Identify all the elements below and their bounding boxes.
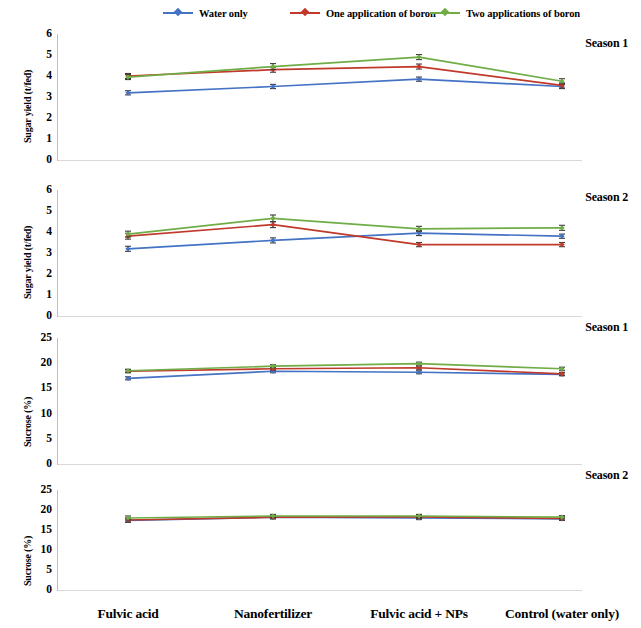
y-axis-tick-label: 6 <box>30 184 52 196</box>
x-axis-category-labels: Fulvic acidNanofertilizerFulvic acid + N… <box>0 604 641 626</box>
x-axis-label-4: Control (water only) <box>505 606 619 622</box>
legend-label: Water only <box>199 8 248 19</box>
y-axis-tick-label: 25 <box>30 332 52 344</box>
y-axis-tick-label: 15 <box>30 383 52 395</box>
y-axis-line <box>57 490 58 591</box>
data-point-marker <box>270 238 275 243</box>
x-axis-label-3: Fulvic acid + NPs <box>370 606 468 622</box>
y-axis-tick-label: 10 <box>30 544 52 556</box>
y-axis-tick-label: 4 <box>30 70 52 82</box>
y-axis-tick-label: 0 <box>30 154 52 166</box>
y-axis-tick-label: 5 <box>30 564 52 576</box>
y-axis-tick-label: 15 <box>30 524 52 536</box>
series-2 <box>125 64 565 88</box>
legend-label: One application of boron <box>326 8 436 19</box>
y-axis-tick-label: 5 <box>30 433 52 445</box>
x-axis-label-2: Nanofertilizer <box>234 606 312 622</box>
series-1 <box>125 230 565 251</box>
plot-area <box>63 178 592 328</box>
data-point-marker <box>270 222 275 227</box>
y-axis-tick-label: 20 <box>30 357 52 369</box>
legend-item-two_boron[interactable]: Two applications of boron <box>430 5 580 21</box>
x-axis-label-1: Fulvic acid <box>97 606 158 622</box>
x-axis-line <box>57 590 582 591</box>
data-point-marker <box>125 246 130 251</box>
legend-marker-icon-water_only <box>163 7 193 19</box>
y-axis-tick-label: 0 <box>30 458 52 470</box>
plot-area <box>63 478 592 602</box>
legend-item-water_only[interactable]: Water only <box>163 5 248 21</box>
x-axis-line <box>57 316 582 317</box>
series-1 <box>125 77 565 96</box>
series-line <box>128 233 562 249</box>
data-point-marker <box>270 64 275 69</box>
y-axis-tick-label: 20 <box>30 504 52 516</box>
data-point-marker <box>416 64 421 69</box>
y-axis-tick-label: 3 <box>30 247 52 259</box>
data-point-marker <box>416 55 421 60</box>
legend-label: Two applications of boron <box>466 8 580 19</box>
y-axis-tick-label: 0 <box>30 310 52 322</box>
legend-marker-icon-two_boron <box>430 7 460 19</box>
y-axis-tick-label: 10 <box>30 408 52 420</box>
y-axis-tick-label: 6 <box>30 28 52 40</box>
x-axis-line <box>57 160 582 161</box>
data-point-marker <box>559 225 564 230</box>
x-axis-line <box>57 464 582 465</box>
legend-item-one_boron[interactable]: One application of boron <box>290 5 436 21</box>
y-axis-line <box>57 190 58 317</box>
plot-area <box>63 22 592 172</box>
legend-marker-icon-one_boron <box>290 7 320 19</box>
data-point-marker <box>270 216 275 221</box>
y-axis-tick-label: 2 <box>30 268 52 280</box>
y-axis-tick-label: 1 <box>30 133 52 145</box>
y-axis-tick-label: 2 <box>30 112 52 124</box>
y-axis-line <box>57 338 58 465</box>
plot-area <box>63 326 592 476</box>
y-axis-tick-label: 1 <box>30 289 52 301</box>
y-axis-line <box>57 34 58 161</box>
figure-root: Water onlyOne application of boronTwo ap… <box>0 0 641 628</box>
y-axis-tick-label: 4 <box>30 226 52 238</box>
y-axis-tick-label: 3 <box>30 91 52 103</box>
y-axis-tick-label: 5 <box>30 205 52 217</box>
series-line <box>128 371 562 378</box>
y-axis-tick-label: 25 <box>30 484 52 496</box>
y-axis-tick-label: 0 <box>30 584 52 596</box>
series-line <box>128 79 562 93</box>
series-3 <box>125 55 565 84</box>
y-axis-tick-label: 5 <box>30 49 52 61</box>
